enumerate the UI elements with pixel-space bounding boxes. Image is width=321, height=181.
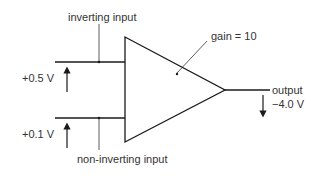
gain-dot: [176, 73, 178, 75]
amplifier-triangle: [125, 37, 225, 142]
non-inverting-input-label: non-inverting input: [77, 153, 168, 165]
inverting-input-label: inverting input: [68, 11, 137, 23]
inverting-input-dot: [98, 61, 101, 64]
output-label: output: [272, 84, 303, 96]
non-inverting-input-dot: [98, 117, 101, 120]
gain-label: gain = 10: [211, 30, 257, 42]
upper-voltage-label: +0.5 V: [22, 72, 54, 84]
output-voltage-label: −4.0 V: [272, 98, 304, 110]
gain-leader: [177, 41, 207, 73]
lower-voltage-label: +0.1 V: [22, 128, 54, 140]
